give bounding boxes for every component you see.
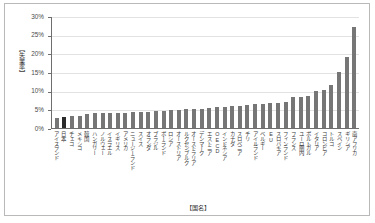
bar-slot <box>236 17 244 128</box>
bar-slot <box>145 17 153 128</box>
bar <box>154 111 158 128</box>
bar-slot <box>328 17 336 128</box>
bar <box>169 110 173 128</box>
x-axis-tick-label: オーストラリア <box>191 131 197 197</box>
bar-slot <box>312 17 320 128</box>
x-axis-tick-label: スイス <box>137 131 143 197</box>
y-axis-tick-label: 0% <box>14 126 44 132</box>
x-axis-tick-label: ハンガリー <box>91 131 97 197</box>
x-axis-tick-slot: イスラエル <box>106 131 114 197</box>
bar <box>162 111 166 128</box>
bar <box>352 27 356 128</box>
x-axis-tick-slot: ポルトガル <box>305 131 313 197</box>
x-axis-tick-slot: デンマーク <box>197 131 205 197</box>
x-axis-tick-slot: トルコ <box>328 131 336 197</box>
x-axis-tick-slot: イギリス <box>113 131 121 197</box>
bar-slot <box>343 17 351 128</box>
x-axis-tick-slot: メキシコ <box>75 131 83 197</box>
bar-slot <box>160 17 168 128</box>
bar-slot <box>282 17 290 128</box>
bar-slot <box>183 17 191 128</box>
x-axis-tick-slot: ノルウェー <box>98 131 106 197</box>
x-axis-tick-label: アイルランド <box>252 131 258 197</box>
x-axis-tick-label: コロンビア <box>321 131 327 197</box>
bar-slot <box>213 17 221 128</box>
bar <box>238 106 242 128</box>
x-axis-tick-label: オランダ <box>145 131 151 197</box>
x-axis-tick-slot: スイス <box>136 131 144 197</box>
x-axis-tick-label: エストニア <box>206 131 212 197</box>
x-axis-tick-label: ユーロ圏内 <box>298 131 304 197</box>
x-axis-tick-label: イタリア <box>313 131 319 197</box>
x-axis-tick-slot: ポーランド <box>159 131 167 197</box>
bar-slot <box>129 17 137 128</box>
bar <box>131 112 135 128</box>
bar-slot <box>114 17 122 128</box>
x-axis-tick-label: フランス <box>290 131 296 197</box>
bar-slot <box>221 17 229 128</box>
x-axis-tick-label: ノルウェー <box>99 131 105 197</box>
x-axis-tick-slot: ベルギー <box>259 131 267 197</box>
y-axis-tick-label: 10% <box>14 88 44 94</box>
x-axis-tick-slot: チェコ <box>67 131 75 197</box>
bar <box>200 109 204 128</box>
x-axis-tick-label: チリ <box>244 131 250 197</box>
bar <box>345 57 349 128</box>
bar <box>230 106 234 128</box>
x-axis-tick-label: 日本 <box>61 131 67 197</box>
bar <box>192 109 196 128</box>
bar-slot <box>68 17 76 128</box>
bar <box>314 91 318 128</box>
plot-area <box>51 17 359 129</box>
bar <box>139 112 143 128</box>
bar <box>62 117 66 128</box>
x-axis-tick-label: ベルギー <box>260 131 266 197</box>
bar <box>299 97 303 128</box>
x-axis-tick-slot: ニュージーランド <box>129 131 137 197</box>
x-axis-tick-slot: コロンビア <box>320 131 328 197</box>
bar-slot <box>267 17 275 128</box>
bar-slot <box>206 17 214 128</box>
bar-slot <box>320 17 328 128</box>
bar-slot <box>61 17 69 128</box>
x-axis-tick-label: ポーランド <box>160 131 166 197</box>
x-axis-tick-label: ニュージーランド <box>130 131 136 197</box>
chart-figure: 【失業率】 0%5%10%15%20%25%30% アイスランド日本チェコメキシ… <box>0 0 375 223</box>
x-axis-tick-label: スロベニア <box>237 131 243 197</box>
bar-slot <box>259 17 267 128</box>
x-axis-tick-slot: 韓国 <box>83 131 91 197</box>
bar <box>215 107 219 128</box>
bar <box>329 85 333 128</box>
x-axis-tick-label: アメリカ <box>122 131 128 197</box>
bar-slot <box>167 17 175 128</box>
bar-slot <box>106 17 114 128</box>
bar-slot <box>122 17 130 128</box>
x-axis-tick-label: メキシコ <box>76 131 82 197</box>
x-axis-tick-slot: アイルランド <box>251 131 259 197</box>
bar-slot <box>76 17 84 128</box>
bar <box>284 102 288 128</box>
x-axis-tick-label: インドネシア <box>221 131 227 197</box>
bar <box>123 113 127 128</box>
x-axis-tick-slot: ハンガリー <box>90 131 98 197</box>
y-axis-tick-label: 30% <box>14 14 44 20</box>
x-axis-tick-label: ポルトガル <box>306 131 312 197</box>
bar-slot <box>335 17 343 128</box>
x-axis-tick-slot: アイスランド <box>52 131 60 197</box>
bar <box>207 108 211 128</box>
bar <box>306 96 310 128</box>
x-axis-tick-slot: スロバキア <box>274 131 282 197</box>
x-axis-tick-slot: ユーロ圏内 <box>297 131 305 197</box>
bar <box>101 113 105 128</box>
bar <box>276 103 280 128</box>
x-axis-tick-slot: 南アフリカ <box>351 131 359 197</box>
x-axis-tick-slot: フランス <box>289 131 297 197</box>
bar <box>223 107 227 128</box>
x-axis-title: 【国名】 <box>0 203 375 212</box>
bar-slot <box>175 17 183 128</box>
x-axis-tick-label: デンマーク <box>199 131 205 197</box>
x-axis-tick-slot: ルクセンブルク <box>182 131 190 197</box>
bar-slot <box>91 17 99 128</box>
bar-slot <box>84 17 92 128</box>
x-axis-tick-slot: ロシア <box>167 131 175 197</box>
